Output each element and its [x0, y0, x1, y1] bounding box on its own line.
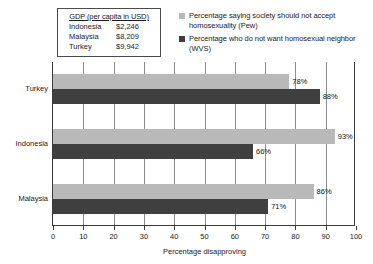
legend-label: Percentage who do not want homosexual ne… [189, 34, 371, 53]
bar-malaysia-series1 [53, 184, 314, 199]
x-tick-label: 80 [291, 232, 299, 241]
bar-value-label: 71% [271, 199, 286, 214]
x-tick-label: 70 [261, 232, 269, 241]
bar-value-label: 78% [292, 74, 307, 89]
gdp-country-name: Turkey [69, 42, 92, 52]
x-tick-label: 100 [350, 232, 363, 241]
chart-legend: Percentage saying society should not acc… [179, 11, 371, 57]
gdp-table-row: Malaysia $8,209 [63, 32, 155, 42]
legend-entry-wvs: Percentage who do not want homosexual ne… [179, 34, 371, 53]
x-tick-mark [356, 226, 357, 230]
x-tick-mark [144, 226, 145, 230]
x-tick-mark [53, 226, 54, 230]
gdp-table: GDP (per capita in USD) Indonesia $2,246… [57, 8, 161, 57]
bar-value-label: 93% [338, 129, 353, 144]
bar-indonesia-series2 [53, 144, 253, 159]
legend-swatch-icon [179, 13, 185, 19]
x-tick-label: 50 [200, 232, 208, 241]
x-tick-mark [114, 226, 115, 230]
x-tick-label: 10 [79, 232, 87, 241]
x-tick-label: 0 [51, 232, 55, 241]
bar-indonesia-series1 [53, 129, 335, 144]
bar-turkey-series2 [53, 89, 320, 104]
plot-area: Turkey78%88%Indonesia93%66%Malaysia86%71… [52, 62, 355, 226]
legend-swatch-icon [179, 36, 185, 42]
x-tick-mark [83, 226, 84, 230]
x-tick-mark [174, 226, 175, 230]
gdp-country-name: Indonesia [69, 22, 102, 32]
x-tick-label: 30 [140, 232, 148, 241]
x-tick-label: 20 [109, 232, 117, 241]
legend-entry-pew: Percentage saying society should not acc… [179, 11, 371, 30]
x-tick-label: 40 [170, 232, 178, 241]
x-tick-mark [205, 226, 206, 230]
x-tick-label: 60 [231, 232, 239, 241]
bar-value-label: 86% [317, 184, 332, 199]
gdp-country-value: $2,246 [116, 22, 152, 32]
bar-value-label: 88% [323, 89, 338, 104]
x-tick-mark [265, 226, 266, 230]
gdp-table-title: GDP (per capita in USD) [63, 12, 155, 21]
bar-malaysia-series2 [53, 199, 268, 214]
gdp-country-value: $8,209 [116, 32, 152, 42]
x-tick-label: 90 [322, 232, 330, 241]
x-tick-mark [326, 226, 327, 230]
gdp-table-row: Turkey $9,942 [63, 42, 155, 52]
category-label: Turkey [25, 84, 48, 93]
bar-value-label: 66% [256, 144, 271, 159]
x-tick-mark [295, 226, 296, 230]
gdp-table-row: Indonesia $2,246 [63, 22, 155, 32]
x-tick-mark [235, 226, 236, 230]
gdp-country-name: Malaysia [69, 32, 99, 42]
category-label: Indonesia [15, 139, 48, 148]
chart-figure: GDP (per capita in USD) Indonesia $2,246… [0, 0, 373, 264]
bar-turkey-series1 [53, 74, 289, 89]
x-axis-title: Percentage disapproving [53, 247, 356, 256]
legend-label: Percentage saying society should not acc… [189, 11, 371, 30]
gdp-country-value: $9,942 [116, 42, 152, 52]
category-label: Malaysia [18, 194, 48, 203]
